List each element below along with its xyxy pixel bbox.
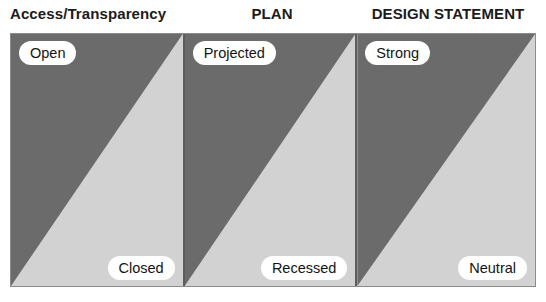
pill-label-projected: Projected: [193, 41, 276, 65]
panel-plan: Projected Recessed: [183, 34, 356, 286]
diagram-root: Access/Transparency PLAN DESIGN STATEMEN…: [0, 0, 546, 302]
pill-label-closed: Closed: [108, 256, 175, 280]
column-header-design-statement: DESIGN STATEMENT: [360, 3, 536, 25]
spectrum-panels-frame: Open Closed Projected Recessed Strong Ne…: [10, 33, 536, 287]
column-header-row: Access/Transparency PLAN DESIGN STATEMEN…: [0, 0, 546, 34]
pill-label-open: Open: [19, 41, 76, 65]
panel-access-transparency: Open Closed: [11, 34, 183, 286]
pill-label-neutral: Neutral: [458, 256, 527, 280]
dark-triangle-shape: [185, 34, 356, 286]
dark-triangle-shape: [357, 34, 535, 286]
column-header-plan: PLAN: [186, 3, 358, 25]
panel-design-statement: Strong Neutral: [355, 34, 535, 286]
pill-label-recessed: Recessed: [261, 256, 347, 280]
dark-triangle-shape: [11, 34, 183, 286]
column-header-access-transparency: Access/Transparency: [10, 3, 166, 25]
pill-label-strong: Strong: [365, 41, 430, 65]
